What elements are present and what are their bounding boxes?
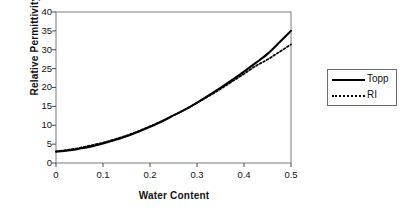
legend-item-topp: Topp [328,72,396,88]
legend-swatch-ri [332,95,365,97]
y-tick-marks [52,12,56,163]
legend: Topp RI [327,69,397,106]
x-tick-marks [56,163,291,167]
legend-label-ri: RI [367,89,377,100]
legend-label-topp: Topp [367,73,389,84]
legend-item-ri: RI [328,88,396,104]
legend-swatch-topp [332,79,365,81]
chart-figure: Relative Permittivity 40 35 30 25 20 15 … [0,0,404,213]
plot-area [0,0,404,213]
axes-frame [56,12,291,163]
